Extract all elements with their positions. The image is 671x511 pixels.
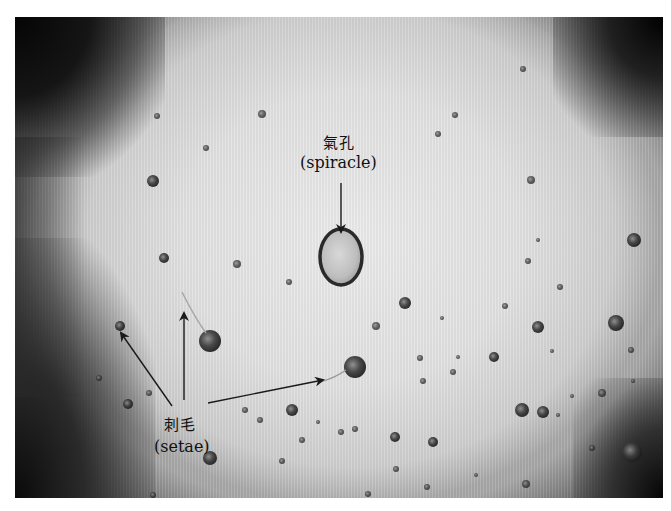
seta-socket [352, 426, 358, 432]
seta-socket [286, 404, 298, 416]
spiracle-opening [320, 229, 362, 285]
seta-socket [515, 403, 529, 417]
seta-socket [393, 466, 399, 472]
seta-socket [199, 330, 221, 352]
spiracle-label-chinese: 氣孔 [323, 131, 355, 152]
seta-socket [440, 316, 444, 320]
seta-hair [320, 370, 346, 382]
seta-socket [608, 315, 624, 331]
setae-arrow-right [208, 380, 323, 403]
seta-socket [525, 258, 531, 264]
seta-socket [417, 355, 423, 361]
seta-socket [344, 356, 366, 378]
seta-socket [556, 413, 560, 417]
seta-socket [536, 238, 540, 242]
seta-socket [550, 349, 554, 353]
seta-socket [424, 484, 430, 490]
seta-socket [520, 66, 526, 72]
seta-socket [96, 375, 102, 381]
seta-socket [598, 389, 606, 397]
seta-socket [435, 131, 441, 137]
seta-socket [146, 390, 152, 396]
seta-socket [557, 284, 563, 290]
seta-socket [489, 352, 499, 362]
seta-socket [286, 279, 292, 285]
seta-socket [390, 432, 400, 442]
seta-socket [589, 445, 595, 451]
spiracle-label-english: (spiracle) [300, 153, 377, 172]
seta-socket [532, 321, 544, 333]
seta-socket [154, 113, 160, 119]
seta-socket [233, 260, 241, 268]
seta-socket [522, 480, 530, 488]
seta-socket [279, 458, 285, 464]
seta-socket [570, 394, 574, 398]
seta-socket [628, 347, 634, 353]
setae-label-english: (setae) [154, 437, 210, 456]
seta-socket [452, 112, 458, 118]
seta-socket [502, 303, 508, 309]
seta-socket [474, 473, 478, 477]
seta-socket [257, 417, 263, 423]
seta-socket [203, 145, 209, 151]
setae-label-chinese: 刺毛 [164, 413, 196, 434]
seta-socket [159, 253, 169, 263]
seta-socket [299, 437, 305, 443]
seta-socket [537, 406, 549, 418]
seta-hair [182, 292, 206, 333]
seta-socket [372, 322, 380, 330]
seta-socket [338, 429, 344, 435]
seta-socket [622, 442, 642, 462]
seta-socket [150, 492, 156, 498]
seta-socket [399, 297, 411, 309]
seta-socket [115, 321, 125, 331]
setae-arrow-left [121, 333, 172, 406]
seta-socket [627, 233, 641, 247]
seta-socket [456, 355, 460, 359]
seta-socket [450, 369, 456, 375]
seta-socket [123, 399, 133, 409]
seta-socket [365, 491, 371, 497]
seta-socket [242, 407, 248, 413]
seta-socket [147, 175, 159, 187]
seta-socket [258, 110, 266, 118]
seta-socket [420, 378, 426, 384]
seta-socket [631, 379, 635, 383]
seta-socket [316, 420, 320, 424]
seta-socket [428, 437, 438, 447]
annotation-overlay [0, 0, 671, 511]
seta-socket [527, 176, 535, 184]
